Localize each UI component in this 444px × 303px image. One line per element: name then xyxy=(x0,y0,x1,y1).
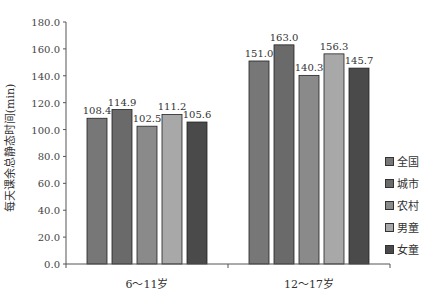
y-tick-label: 80.0 xyxy=(38,151,60,162)
data-label: 105.6 xyxy=(183,109,212,120)
legend-label: 男童 xyxy=(397,219,419,235)
legend-swatch-icon xyxy=(385,201,394,210)
legend-label: 农村 xyxy=(397,197,419,213)
bar-城市 xyxy=(274,45,294,264)
bars: 108.4114.9102.5111.2105.6151.0163.0140.3… xyxy=(83,32,374,264)
bar-农村 xyxy=(299,75,319,264)
legend-swatch-icon xyxy=(385,179,394,188)
legend-item: 农村 xyxy=(385,194,419,216)
data-label: 140.3 xyxy=(295,62,324,73)
bar-全国 xyxy=(249,61,269,264)
legend-label: 城市 xyxy=(397,175,419,191)
data-label: 156.3 xyxy=(320,41,349,52)
legend-item: 女童 xyxy=(385,238,419,260)
bar-男童 xyxy=(162,114,182,264)
y-tick-label: 120.0 xyxy=(31,98,60,109)
y-axis: 0.020.040.060.080.0100.0120.0140.0160.01… xyxy=(31,17,66,270)
y-tick-label: 0.0 xyxy=(44,259,60,270)
legend: 全国城市农村男童女童 xyxy=(385,150,419,260)
x-axis: 6～11岁12～17岁 xyxy=(66,264,390,291)
bar-chart: 0.020.040.060.080.0100.0120.0140.0160.01… xyxy=(0,0,444,303)
bar-城市 xyxy=(112,110,132,264)
legend-swatch-icon xyxy=(385,223,394,232)
x-category-label: 6～11岁 xyxy=(126,277,169,291)
data-label: 145.7 xyxy=(345,55,374,66)
y-tick-label: 20.0 xyxy=(38,232,60,243)
data-label: 151.0 xyxy=(245,48,274,59)
data-label: 163.0 xyxy=(270,32,299,43)
legend-swatch-icon xyxy=(385,245,394,254)
y-tick-label: 100.0 xyxy=(31,125,60,136)
y-tick-label: 60.0 xyxy=(38,178,60,189)
y-tick-label: 40.0 xyxy=(38,205,60,216)
bar-女童 xyxy=(349,68,369,264)
data-label: 102.5 xyxy=(133,113,162,124)
legend-item: 男童 xyxy=(385,216,419,238)
bar-农村 xyxy=(137,126,157,264)
legend-swatch-icon xyxy=(385,157,394,166)
y-tick-label: 160.0 xyxy=(31,44,60,55)
chart-canvas: 0.020.040.060.080.0100.0120.0140.0160.01… xyxy=(0,0,444,303)
y-tick-label: 140.0 xyxy=(31,71,60,82)
y-axis-label: 每天课余总静态时间(min) xyxy=(3,84,17,213)
legend-item: 全国 xyxy=(385,150,419,172)
legend-item: 城市 xyxy=(385,172,419,194)
legend-label: 女童 xyxy=(397,241,419,257)
bar-男童 xyxy=(324,54,344,264)
legend-label: 全国 xyxy=(397,153,419,169)
bar-全国 xyxy=(87,118,107,264)
y-tick-label: 180.0 xyxy=(31,17,60,28)
data-label: 114.9 xyxy=(108,97,137,108)
bar-女童 xyxy=(187,122,207,264)
x-category-label: 12～17岁 xyxy=(284,277,334,291)
